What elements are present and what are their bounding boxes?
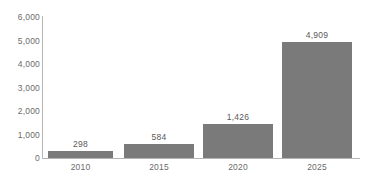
bar-item[interactable]: 584	[124, 16, 194, 158]
bar-rect[interactable]	[124, 144, 194, 158]
bar-item[interactable]: 4,909	[282, 16, 352, 158]
y-axis-tick-label: 4,000	[2, 59, 40, 69]
x-axis-category-label: 2020	[203, 162, 273, 172]
y-axis-tick-label: 3,000	[2, 83, 40, 93]
bar-value-label: 1,426	[227, 112, 249, 122]
bar-chart: 0 1,000 2,000 3,000 4,000 5,000 6,000 29…	[0, 0, 372, 190]
bar-item[interactable]: 298	[48, 16, 113, 158]
bar-value-label: 4,909	[306, 30, 328, 40]
bar-rect[interactable]	[282, 42, 352, 158]
bar-value-label: 298	[73, 139, 88, 149]
y-axis-tick-label: 1,000	[2, 130, 40, 140]
y-axis-tick-label: 6,000	[2, 12, 40, 22]
x-axis-category-labels: 2010 2015 2020 2025	[42, 162, 360, 182]
x-axis-category-label: 2025	[282, 162, 352, 172]
x-axis-category-label: 2010	[48, 162, 113, 172]
y-axis-tick-label: 0	[2, 153, 40, 163]
x-axis-category-label: 2015	[124, 162, 194, 172]
y-axis-tick-label: 5,000	[2, 36, 40, 46]
bars-layer: 298 584 1,426 4,909	[42, 17, 360, 159]
bar-value-label: 584	[152, 132, 167, 142]
bar-rect[interactable]	[48, 151, 113, 158]
bar-item[interactable]: 1,426	[203, 16, 273, 158]
y-axis-tick-labels: 0 1,000 2,000 3,000 4,000 5,000 6,000	[0, 0, 40, 190]
bar-rect[interactable]	[203, 124, 273, 158]
y-axis-tick-label: 2,000	[2, 106, 40, 116]
